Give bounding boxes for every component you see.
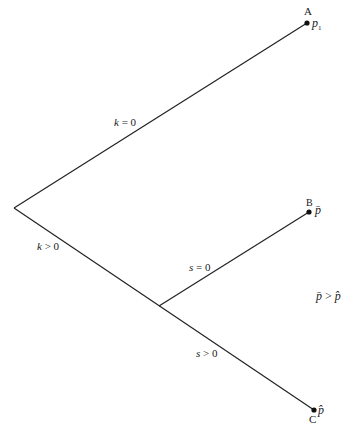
- edge-label-k-zero-rel: = 0: [119, 116, 136, 128]
- node-b-payoff: p̄: [315, 204, 321, 216]
- edge-label-k-pos: k > 0: [37, 241, 59, 252]
- edge-label-k-pos-rel: > 0: [42, 240, 59, 252]
- node-a-subscript: 1: [318, 24, 322, 32]
- node-c-payoff: p̂: [318, 404, 324, 416]
- edge-label-s-zero: s = 0: [189, 262, 211, 273]
- edge-k-pos: [14, 208, 314, 410]
- edge-label-s-pos: s > 0: [196, 348, 218, 359]
- note-rhs: p̂: [335, 289, 341, 303]
- edge-k-zero: [14, 23, 307, 208]
- edge-label-s-zero-rel: = 0: [193, 261, 210, 273]
- decision-tree-lines: [0, 0, 354, 434]
- node-c-dot: [311, 407, 316, 412]
- node-c-letter: C: [309, 414, 316, 425]
- edge-label-k-zero: k = 0: [114, 117, 136, 128]
- edge-label-s-pos-rel: > 0: [200, 347, 217, 359]
- node-a-letter: A: [304, 6, 312, 17]
- price-comparison-note: p̄ > p̂: [316, 290, 341, 302]
- node-a-payoff: p1: [312, 17, 322, 32]
- node-b-dot: [306, 209, 311, 214]
- note-op: >: [322, 289, 335, 303]
- node-a-dot: [304, 20, 309, 25]
- edge-s-zero: [159, 212, 309, 306]
- node-b-letter: B: [306, 198, 313, 208]
